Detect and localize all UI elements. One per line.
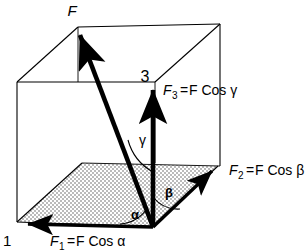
equation-F1-rhs: F Cos α — [76, 233, 125, 249]
equation-F2-subscript: 2 — [238, 170, 244, 181]
equation-F2-rhs: F Cos β — [255, 162, 304, 178]
equation-F1-subscript: 1 — [59, 241, 65, 251]
equation-F3-equals: = — [180, 82, 188, 98]
equation-F2-equals: = — [246, 162, 254, 178]
label-corner-three: 3 — [141, 68, 150, 85]
equation-F3-subscript: 3 — [172, 90, 178, 101]
label-corner-one: 1 — [3, 232, 11, 249]
label-angle-alpha: α — [131, 207, 139, 222]
label-angle-beta: β — [165, 185, 173, 200]
force-vector-diagram: F 3 1 F 3 = F Cos γ F 2 = F Cos β F 1 = … — [0, 0, 308, 251]
label-resultant-F: F — [67, 2, 77, 19]
equation-F3-rhs: F Cos γ — [189, 82, 237, 98]
equation-F1-equals: = — [67, 233, 75, 249]
label-angle-gamma: γ — [139, 132, 146, 148]
